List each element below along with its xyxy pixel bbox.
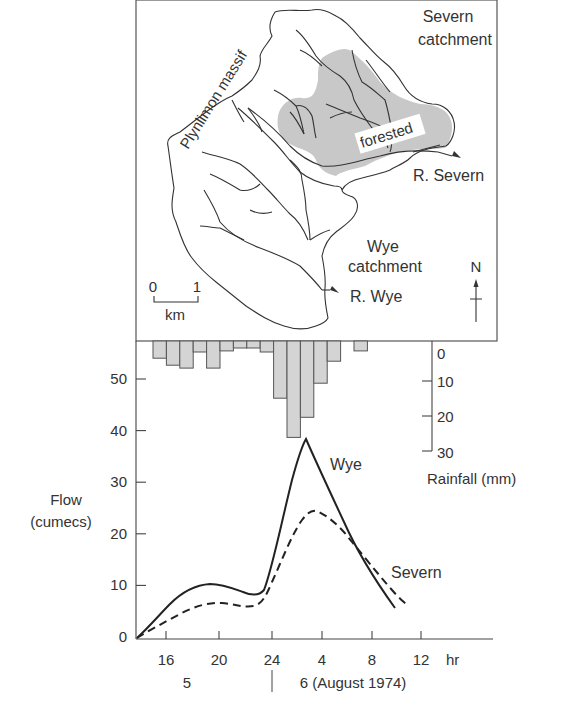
severn-catchment-label-line1: Severn [423,8,474,25]
rain-tick-20: 20 [437,408,454,425]
wye-catchment-label-line1: Wye [367,238,399,255]
rain-tick-30: 30 [437,444,454,461]
rainfall-bars [153,341,367,437]
rainfall-bar [180,341,193,368]
severn-river-label: R. Severn [413,167,484,184]
scale-end-label: 1 [193,278,201,295]
flow-x-tick-label: 16 [158,651,175,668]
flow-x-ticks: 1620244812 [158,631,430,668]
day-label-6: 6 (August 1974) [300,674,407,691]
rainfall-bar [260,341,273,352]
flow-axes: 01020304050 1620244812 hr Flow (cumecs) … [30,341,493,692]
rainfall-bar [233,341,246,348]
flow-x-tick-label: 4 [318,651,326,668]
rainfall-bar [287,341,300,437]
north-label: N [471,258,482,275]
rainfall-bar [207,341,220,368]
map-panel: Severn catchment Plynlimon massif forest… [136,0,497,341]
flow-x-tick-label: 24 [264,651,281,668]
flow-x-tick-label: 8 [368,651,376,668]
flow-y-tick-label: 40 [110,422,127,439]
flow-x-tick-label: 12 [413,651,430,668]
scale-start-label: 0 [149,278,157,295]
rain-tick-0: 0 [437,345,445,362]
rainfall-bar [314,341,327,383]
flow-y-tick-label: 50 [110,370,127,387]
flow-y-tick-label: 30 [110,473,127,490]
wye-river-label: R. Wye [350,288,402,305]
rainfall-bar [153,341,166,358]
wye-catchment-label-line2: catchment [348,258,422,275]
flow-axis-title-line2: (cumecs) [30,513,92,530]
figure: Severn catchment Plynlimon massif forest… [0,0,578,714]
severn-hydrograph-line [137,511,408,638]
rainfall-bar [274,341,287,398]
rainfall-bar [247,341,260,348]
wye-series-label: Wye [330,456,362,473]
flow-y-tick-label: 20 [110,525,127,542]
rainfall-bar [220,341,233,351]
flow-y-tick-label: 10 [110,576,127,593]
rainfall-axis: 0 10 20 30 Rainfall (mm) [422,341,516,487]
rainfall-bar [327,341,340,361]
severn-catchment-label-line2: catchment [418,31,492,48]
flow-x-tick-label: 20 [211,651,228,668]
day-label-5: 5 [183,674,191,691]
flow-y-ticks: 01020304050 [110,370,146,645]
rain-tick-10: 10 [437,373,454,390]
flow-y-tick-label: 0 [119,628,127,645]
rainfall-bar [354,341,367,351]
x-axis-unit-label: hr [446,651,459,668]
flow-axis-title-line1: Flow [50,491,82,508]
rainfall-bar [166,341,179,365]
rainfall-axis-title: Rainfall (mm) [427,470,516,487]
rainfall-bar [193,341,206,352]
rainfall-bar [300,341,313,417]
severn-series-label: Severn [391,564,442,581]
scale-unit-label: km [165,306,185,323]
